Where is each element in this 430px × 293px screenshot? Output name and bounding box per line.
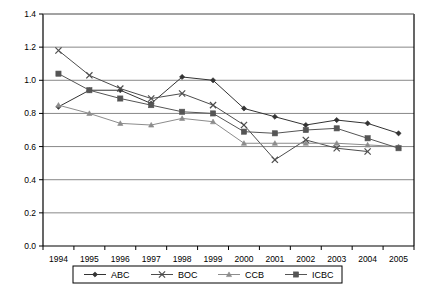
legend-label: CCB [245,270,264,280]
marker-diamond [272,114,277,119]
y-tick-label: 1.0 [24,75,36,85]
marker-diamond [365,121,370,126]
y-tick-label: 0.0 [24,241,36,251]
y-tick-label: 1.2 [24,42,36,52]
y-tick-label: 0.6 [24,142,36,152]
series-ccb [56,103,401,149]
chart-canvas: 0.00.20.40.60.81.01.21.4 199419951996199… [0,0,430,293]
marker-square [87,88,92,93]
marker-triangle [56,103,61,108]
y-tick-label: 0.8 [24,108,36,118]
legend-label: BOC [178,270,198,280]
marker-square [149,103,154,108]
x-tick-label: 1994 [49,254,68,264]
marker-square [118,96,123,101]
marker-square [210,111,215,116]
x-tick-label: 2002 [296,254,315,264]
chart-legend: ABCBOCCCBICBC [73,266,342,283]
marker-square [334,126,339,131]
legend-label: ICBC [312,270,334,280]
marker-square [365,136,370,141]
marker-square [396,146,401,151]
marker-diamond [396,131,401,136]
x-tick-label: 2005 [389,254,408,264]
y-tick-label: 1.4 [24,9,36,19]
x-tick-label: 1997 [142,254,161,264]
x-axis-tick-labels: 1994199519961997199819992000200120022003… [49,254,408,264]
series-line [58,74,398,149]
series-boc [55,47,370,163]
x-tick-label: 1995 [80,254,99,264]
series-line [58,105,398,146]
legend-label: ABC [111,270,130,280]
marker-square [272,131,277,136]
x-tick-label: 1996 [111,254,130,264]
y-axis-tick-labels: 0.00.20.40.60.81.01.21.4 [24,9,36,251]
marker-diamond [334,117,339,122]
series-line [58,77,398,133]
x-tick-label: 2001 [265,254,284,264]
x-tick-label: 2000 [234,254,253,264]
axis-lines [43,14,414,246]
y-tick-label: 0.4 [24,175,36,185]
x-tick-label: 1999 [204,254,223,264]
x-tick-label: 2003 [327,254,346,264]
marker-square [241,129,246,134]
marker-square [303,127,308,132]
line-chart: 0.00.20.40.60.81.01.21.4 199419951996199… [0,0,430,293]
marker-diamond [303,122,308,127]
x-tick-label: 2004 [358,254,377,264]
marker-square [180,109,185,114]
marker-square [293,272,298,277]
y-tick-label: 0.2 [24,208,36,218]
x-tick-label: 1998 [173,254,192,264]
data-series-layer [55,47,401,163]
gridlines [43,14,414,213]
x-axis-ticks [43,246,414,250]
marker-square [56,71,61,76]
